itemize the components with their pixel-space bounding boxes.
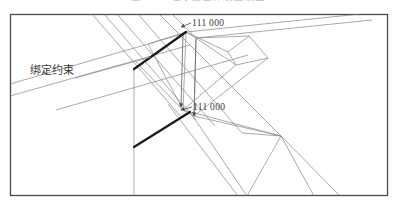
node-label-top: 111 000	[192, 18, 224, 28]
figure-root: 图 4-12 轴承座整体装配模型 绑定约束 111 000 111 000	[0, 0, 397, 210]
node-label-bottom: 111 000	[193, 102, 225, 112]
mesh-diagram: 绑定约束 111 000 111 000	[0, 0, 397, 210]
bonded-constraint-label: 绑定约束	[30, 63, 74, 77]
